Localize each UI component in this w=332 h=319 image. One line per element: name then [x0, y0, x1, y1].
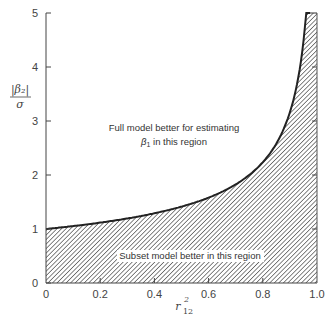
x-axis-label: r 2 12: [175, 295, 193, 316]
svg-text:r: r: [175, 300, 181, 313]
svg-text:Subset model better in this re: Subset model better in this region: [119, 250, 261, 261]
subset-better-region: [46, 13, 317, 283]
x-tick-label: 1.0: [309, 288, 324, 300]
chart: 012345 00.20.40.60.81.0 |β₂| σ r 2 12 Fu…: [0, 0, 332, 319]
x-tick-label: 0.4: [147, 288, 162, 300]
y-axis-label: |β₂| σ: [10, 83, 31, 111]
y-tick-label: 5: [32, 7, 38, 19]
y-tick-label: 2: [32, 169, 38, 181]
y-tick-label: 4: [32, 61, 38, 73]
x-tick-label: 0: [43, 288, 49, 300]
y-tick-label: 1: [32, 223, 38, 235]
x-tick-label: 0.2: [93, 288, 108, 300]
x-tick-label: 0.8: [255, 288, 270, 300]
subset-model-annotation: Subset model better in this region: [117, 250, 264, 262]
svg-text:Full model better for estimati: Full model better for estimating: [109, 122, 239, 133]
x-tick-label: 0.6: [201, 288, 216, 300]
y-tick-label: 3: [32, 115, 38, 127]
svg-text:β1 in this region: β1 in this region: [140, 136, 207, 148]
svg-text:12: 12: [183, 307, 193, 316]
svg-text:|β₂|: |β₂|: [11, 83, 29, 97]
svg-text:σ: σ: [16, 98, 24, 111]
full-model-annotation: Full model better for estimating β1 in t…: [109, 122, 239, 148]
svg-text:2: 2: [183, 295, 189, 304]
y-tick-label: 0: [32, 277, 38, 289]
